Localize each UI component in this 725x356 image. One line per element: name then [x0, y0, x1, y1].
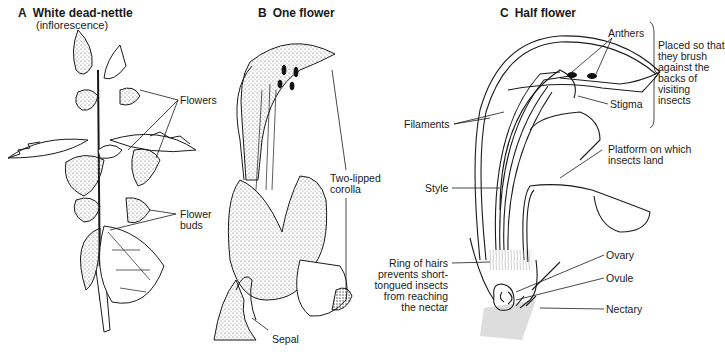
label-style: Style: [425, 183, 448, 194]
label-flowers: Flowers: [180, 95, 217, 106]
label-platform: Platform on which insects land: [608, 144, 691, 166]
label-stigma: Stigma: [610, 99, 643, 110]
label-ring-of-hairs: Ring of hairs prevents short- tongued in…: [356, 258, 448, 313]
label-ovary: Ovary: [606, 250, 634, 261]
panel-a-subtitle: (inflorescence): [36, 19, 108, 31]
panel-b-letter: B: [258, 6, 267, 20]
label-flower-buds: Flower buds: [180, 209, 212, 231]
panel-c-title: CHalf flower: [500, 6, 576, 20]
dead-nettle-plant-drawing: [8, 30, 196, 332]
label-sepal: Sepal: [272, 334, 299, 345]
label-filaments: Filaments: [404, 119, 450, 130]
label-nectary: Nectary: [606, 304, 642, 315]
label-two-lipped-corolla: Two-lipped corolla: [330, 173, 381, 195]
panel-b-title-text: One flower: [273, 6, 335, 20]
panel-c-letter: C: [500, 6, 509, 20]
panel-a-letter: A: [18, 6, 27, 20]
label-anthers: Anthers: [608, 28, 644, 39]
panel-b-title: BOne flower: [258, 6, 335, 20]
panel-c-title-text: Half flower: [515, 6, 576, 20]
panel-a-title-text: White dead-nettle: [33, 6, 133, 20]
label-ovule: Ovule: [606, 273, 633, 284]
panel-a-title: AWhite dead-nettle: [18, 6, 133, 20]
label-anthers-note: Placed so that they brush against the ba…: [658, 40, 725, 106]
